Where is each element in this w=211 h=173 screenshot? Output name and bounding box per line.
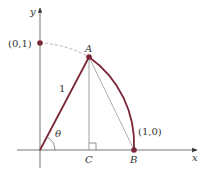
angle-arc: [47, 137, 55, 150]
y-axis-label: y: [29, 6, 36, 17]
point-b-dot: [131, 147, 137, 153]
radius-oa: [40, 57, 89, 150]
chord-ab: [89, 57, 134, 150]
point-c-label: C: [85, 154, 93, 165]
x-axis-label: x: [192, 152, 198, 163]
right-angle-marker: [89, 143, 96, 150]
point-a-dot: [86, 54, 92, 60]
point-b-label: B: [129, 154, 137, 165]
point-a-label: A: [84, 43, 92, 54]
point-top-dot: [37, 40, 43, 46]
angle-label: θ: [55, 128, 61, 139]
point-top-label: (0,1): [8, 38, 32, 49]
dashed-arc: [40, 43, 89, 57]
radius-label: 1: [59, 83, 65, 94]
point-b-coord-label: (1,0): [138, 126, 162, 137]
unit-circle-diagram: y x (0,1) A (1,0) B C 1 θ: [0, 0, 211, 173]
